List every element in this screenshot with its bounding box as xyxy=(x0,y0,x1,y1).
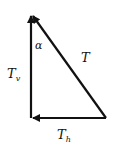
horizontal-label-th: Th xyxy=(57,128,71,141)
horizontal-label-sub: h xyxy=(66,135,71,144)
angle-label-alpha: α xyxy=(35,40,42,51)
hypotenuse-vector-t xyxy=(33,16,106,118)
hypotenuse-label-t: T xyxy=(81,51,90,64)
vertical-label-sub: v xyxy=(16,74,21,83)
horizontal-label-main: T xyxy=(57,127,66,142)
vertical-label-main: T xyxy=(7,66,16,81)
vertical-label-tv: Tv xyxy=(7,67,20,80)
